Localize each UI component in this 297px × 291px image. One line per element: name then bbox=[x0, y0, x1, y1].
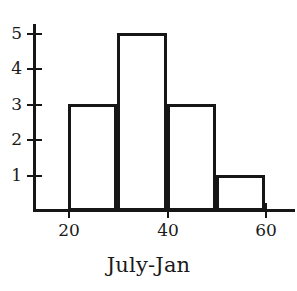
y-axis-tick-label: 3 bbox=[11, 96, 22, 113]
y-axis-tick: 3 bbox=[27, 104, 42, 106]
bar-50-60 bbox=[216, 175, 265, 211]
y-axis-tick-label: 2 bbox=[11, 131, 22, 148]
x-axis-tick-label: 40 bbox=[157, 222, 179, 239]
x-axis-tick-label: 20 bbox=[58, 222, 80, 239]
y-axis-tick: 4 bbox=[27, 68, 42, 70]
y-axis-tick-label: 5 bbox=[11, 25, 22, 42]
y-axis-tick-label: 4 bbox=[11, 60, 22, 77]
y-axis-tick: 5 bbox=[27, 33, 42, 35]
y-axis-tick: 2 bbox=[27, 139, 42, 141]
y-axis-tick: 1 bbox=[27, 175, 42, 177]
bar-30-40 bbox=[117, 33, 167, 211]
bar-40-50 bbox=[167, 104, 216, 211]
y-axis-line bbox=[33, 24, 36, 212]
x-axis-tick-label: 60 bbox=[255, 222, 277, 239]
bar-20-30 bbox=[68, 104, 117, 211]
x-axis-tick: 60 bbox=[265, 203, 267, 218]
x-axis-title: July-Jan bbox=[0, 253, 297, 277]
y-axis-tick-label: 1 bbox=[11, 167, 22, 184]
histogram-figure: 54321 204060 July-Jan bbox=[0, 0, 297, 291]
